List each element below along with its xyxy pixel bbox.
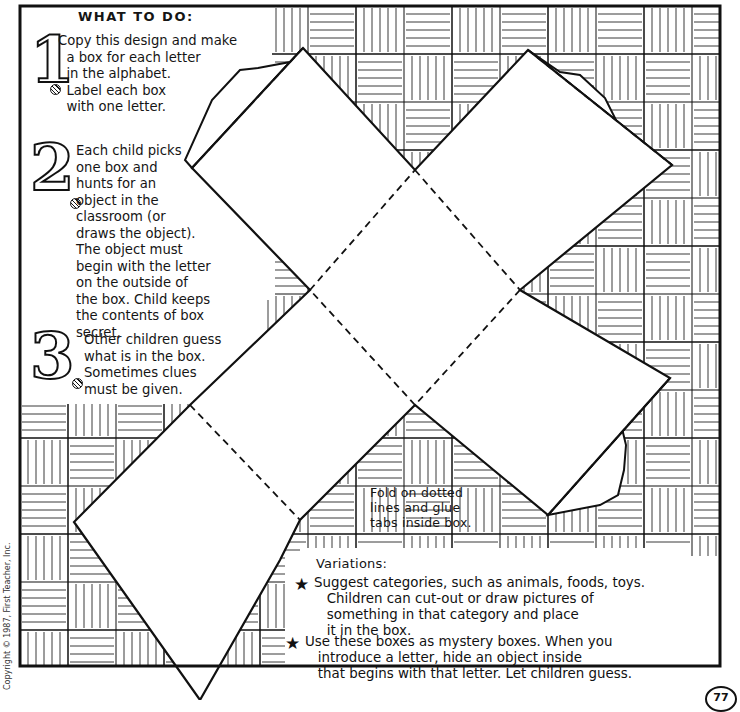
step-2-text: Each child picks one box and hunts for a… xyxy=(76,143,211,341)
star-icon: ★ xyxy=(285,633,300,653)
variation-item-2: Use these boxes as mystery boxes. When y… xyxy=(305,634,632,682)
variations-title: Variations: xyxy=(316,556,387,571)
step-number-3: 3 xyxy=(30,324,75,388)
instructions-heading: WHAT TO DO: xyxy=(78,9,194,24)
variation-item-1: Suggest categories, such as animals, foo… xyxy=(314,575,645,639)
bullet-dot-icon xyxy=(72,378,83,389)
step-number-2: 2 xyxy=(30,136,75,200)
step-3-text: Other children guess what is in the box.… xyxy=(84,332,221,398)
star-icon: ★ xyxy=(294,574,309,594)
page-number: 77 xyxy=(705,686,737,712)
copyright-notice: Copyright © 1987, First Teacher, Inc. xyxy=(3,543,12,691)
fold-instructions: Fold on dotted lines and glue tabs insid… xyxy=(370,485,472,530)
step-1-text: Copy this design and make a box for each… xyxy=(58,33,237,116)
